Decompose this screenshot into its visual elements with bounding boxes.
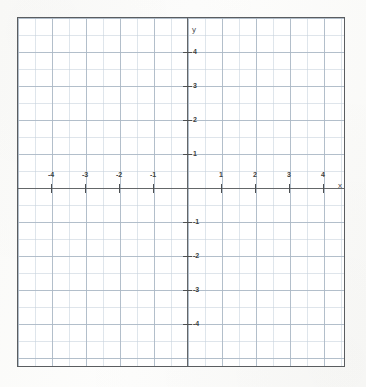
x-tick-mark [51,184,52,193]
x-tick-label: 1 [219,171,223,179]
x-axis-label: x [338,181,342,190]
x-tick-mark [221,184,222,193]
y-tick-mark [183,324,192,325]
y-tick-mark [183,120,192,121]
x-axis-line [18,188,345,189]
y-axis-line [187,18,188,367]
y-tick-label: -3 [193,286,199,294]
x-tick-mark [119,184,120,193]
y-tick-mark [183,256,192,257]
x-tick-mark [85,184,86,193]
minor-gridlines [18,18,344,366]
y-tick-mark [183,154,192,155]
x-tick-label: 3 [287,171,291,179]
x-tick-mark [323,184,324,193]
y-tick-label: 3 [193,82,197,90]
x-tick-mark [255,184,256,193]
coordinate-grid-page: -4-3-2-11234 4321-1-2-3-4 y x [0,0,366,387]
x-tick-mark [153,184,154,193]
y-tick-mark [183,290,192,291]
x-tick-label: -4 [48,171,54,179]
y-tick-label: 2 [193,116,197,124]
x-tick-label: 4 [321,171,325,179]
y-tick-label: 1 [193,150,197,158]
x-tick-label: 2 [253,171,257,179]
y-axis-label: y [192,25,196,34]
y-tick-mark [183,86,192,87]
x-tick-label: -2 [116,171,122,179]
y-tick-label: -2 [193,252,199,260]
x-tick-label: -3 [82,171,88,179]
plot-area: -4-3-2-11234 4321-1-2-3-4 y x [17,17,345,367]
y-tick-label: -4 [193,320,199,328]
y-tick-label: -1 [193,218,199,226]
x-tick-label: -1 [150,171,156,179]
major-gridlines [18,18,344,366]
x-tick-mark [289,184,290,193]
y-tick-mark [183,52,192,53]
y-tick-mark [183,222,192,223]
y-tick-label: 4 [193,48,197,56]
